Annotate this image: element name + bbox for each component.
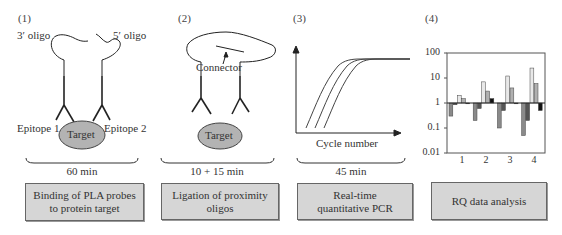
rq-bar	[522, 103, 526, 136]
rq-xtick-1: 1	[455, 154, 469, 165]
brace-3-icon	[297, 158, 405, 163]
rq-bar	[449, 103, 453, 116]
qpcr-amplification-curves	[306, 59, 410, 128]
rq-xtick-4: 4	[527, 154, 541, 165]
antibody-right-2-icon	[232, 76, 249, 114]
rq-ytick-0-1: 0.1	[410, 121, 440, 132]
rq-xtick-2: 2	[479, 154, 493, 165]
step-1-description-box: Binding of PLA probes to protein target	[25, 183, 144, 221]
rq-ytick-10: 10	[410, 71, 440, 82]
step-3-description-line1: Real-time	[317, 189, 392, 202]
rq-bar	[502, 103, 506, 111]
step-4-description-line1: RQ data analysis	[452, 195, 527, 208]
step-1-description-line1: Binding of PLA probes	[33, 189, 135, 202]
step-3-duration: 45 min	[301, 165, 401, 177]
rq-bar	[510, 88, 514, 103]
brace-2-icon	[161, 158, 274, 163]
rq-bar	[486, 91, 490, 103]
step-2-duration: 10 + 15 min	[167, 165, 267, 177]
rq-ytick-0-01: 0.01	[410, 146, 440, 157]
antibody-left-2-icon	[192, 76, 211, 114]
rq-ytick-1: 1	[410, 96, 440, 107]
rq-bar	[462, 99, 466, 103]
connector-label: Connector	[196, 61, 242, 73]
step-2-description-line2: oligos	[172, 202, 267, 215]
step-1-duration: 60 min	[32, 165, 132, 177]
rq-bar	[497, 103, 501, 128]
brace-1-icon	[26, 158, 138, 163]
rq-bar	[530, 68, 534, 103]
target-label-1: Target	[67, 128, 95, 140]
antibody-left-icon	[56, 76, 74, 122]
rq-xtick-3: 3	[503, 154, 517, 165]
step-3-description-box: Real-time quantitative PCR	[297, 183, 413, 220]
step-2-description-box: Ligation of proximity oligos	[161, 183, 279, 220]
rq-bar	[490, 99, 494, 103]
oligo-5prime-label: 5′ oligo	[113, 29, 146, 41]
rq-chart-bars	[449, 68, 542, 135]
qpcr-xaxis-label: Cycle number	[316, 137, 378, 149]
rq-bar	[506, 76, 510, 103]
epitope-2-label: Epitope 2	[104, 122, 146, 134]
step-2-description-line1: Ligation of proximity	[172, 189, 267, 202]
rq-ytick-100: 100	[410, 46, 440, 57]
step-3-description-line2: quantitative PCR	[317, 202, 392, 215]
rq-bar	[482, 82, 486, 103]
rq-bar	[457, 95, 461, 103]
probe-oligo-left-icon	[51, 35, 88, 76]
epitope-1-label: Epitope 1	[17, 122, 59, 134]
rq-bar	[534, 84, 538, 103]
antibody-right-icon	[93, 76, 110, 121]
rq-bar	[477, 103, 481, 109]
rq-bar	[538, 103, 542, 111]
step-4-description-box: RQ data analysis	[431, 182, 547, 220]
rq-bar	[473, 103, 477, 120]
rq-bar	[526, 103, 530, 120]
oligo-3prime-label: 3′ oligo	[17, 29, 50, 41]
step-1-description-line2: to protein target	[33, 202, 135, 215]
target-label-2: Target	[205, 129, 233, 141]
